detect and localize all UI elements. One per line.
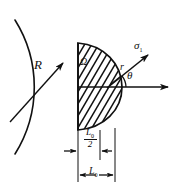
half-length-denominator: 2 xyxy=(82,140,98,149)
diagram-canvas xyxy=(0,0,175,187)
theta-label: θ xyxy=(127,70,132,81)
half-length-label: L0 2 xyxy=(82,128,98,150)
omega-label: Ω xyxy=(80,57,87,67)
plastic-zone-region xyxy=(26,25,175,145)
half-length-numerator: L0 xyxy=(82,128,98,139)
full-length-label: L0 xyxy=(89,166,98,178)
notch-plastic-zone-diagram: R Ω σ1 r θ L0 2 L0 xyxy=(0,0,175,187)
sigma-subscript: 1 xyxy=(139,47,142,53)
radius-label: R xyxy=(34,58,42,71)
hatch-fill xyxy=(26,25,175,145)
sigma1-label: σ1 xyxy=(134,40,142,53)
radial-coordinate-label: r xyxy=(120,62,124,72)
notch-arc xyxy=(15,20,34,154)
